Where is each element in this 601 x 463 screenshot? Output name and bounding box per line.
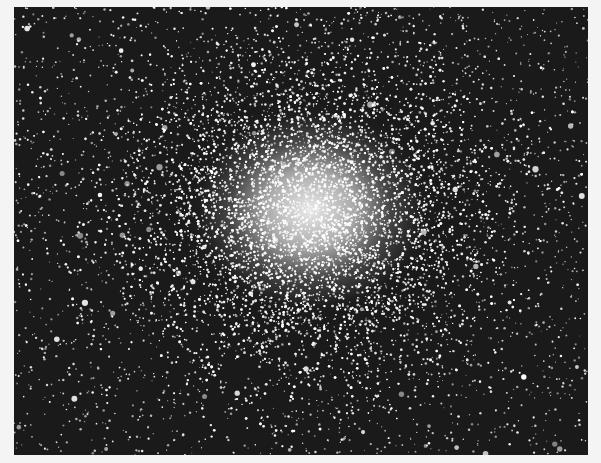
cluster-photograph	[14, 7, 588, 455]
star-field	[14, 7, 588, 455]
